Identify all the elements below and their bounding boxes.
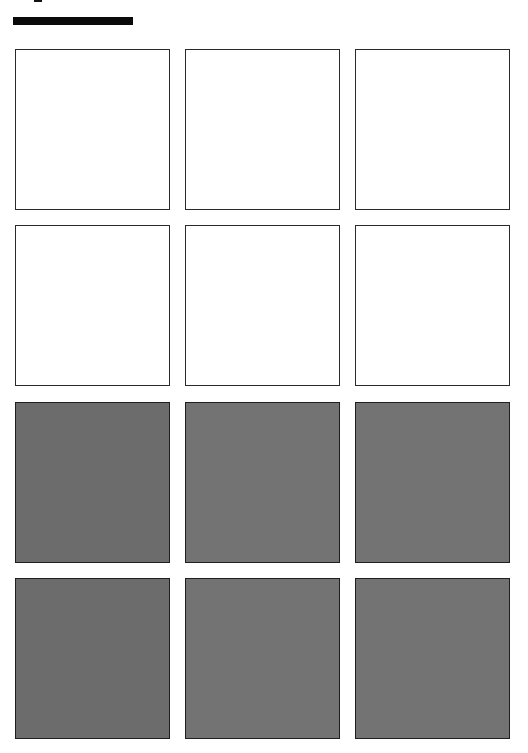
tile-r2-c2[interactable] <box>185 225 340 386</box>
tile-r2-c3[interactable] <box>355 225 510 386</box>
tile-r4-c3[interactable] <box>355 578 510 739</box>
tile-r1-c3[interactable] <box>355 49 510 210</box>
tile-r4-c1[interactable] <box>15 578 170 739</box>
tile-r3-c2[interactable] <box>185 402 340 563</box>
tile-r4-c2[interactable] <box>185 578 340 739</box>
tile-r2-c1[interactable] <box>15 225 170 386</box>
redacted-title-bar <box>13 17 133 25</box>
top-edge-fragment <box>34 0 42 2</box>
tile-r3-c1[interactable] <box>15 402 170 563</box>
tile-r1-c1[interactable] <box>15 49 170 210</box>
tile-r3-c3[interactable] <box>355 402 510 563</box>
tile-r1-c2[interactable] <box>185 49 340 210</box>
